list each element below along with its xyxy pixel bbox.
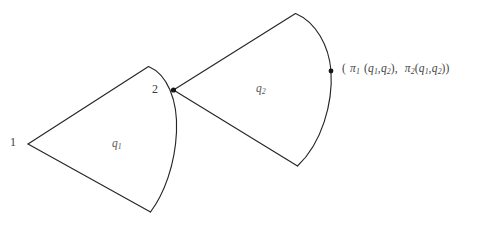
pair-mid-comma: , bbox=[395, 62, 398, 74]
right-cone-upper-edge bbox=[174, 14, 296, 91]
pair-open-paren: ( bbox=[342, 62, 346, 74]
right-cone-lower-edge bbox=[174, 90, 298, 166]
region-label-q1: q1 bbox=[112, 138, 122, 151]
pi-1-subscript: 1 bbox=[356, 67, 360, 76]
pair-projection-label: (π1(q1,q2),π2(q1,q2)) bbox=[342, 63, 450, 76]
vertex-dot-2 bbox=[171, 87, 176, 92]
region-label-q2: q2 bbox=[256, 83, 266, 96]
region-q2-subscript: 2 bbox=[262, 87, 266, 96]
pair-close-paren: ) bbox=[446, 62, 450, 74]
diagram-canvas: 1 2 q1 q2 (π1(q1,q2),π2(q1,q2)) bbox=[0, 0, 478, 230]
vertex-label-2: 2 bbox=[152, 83, 158, 95]
vertex-dot-pair-point bbox=[329, 69, 334, 74]
right-cone-arc bbox=[296, 14, 332, 167]
cone-diagram-figure bbox=[0, 0, 478, 230]
vertex-label-1: 1 bbox=[10, 136, 16, 148]
region-q1-subscript: 1 bbox=[118, 142, 122, 151]
left-cone-upper-edge bbox=[28, 67, 149, 145]
left-cone-lower-edge bbox=[28, 144, 151, 212]
